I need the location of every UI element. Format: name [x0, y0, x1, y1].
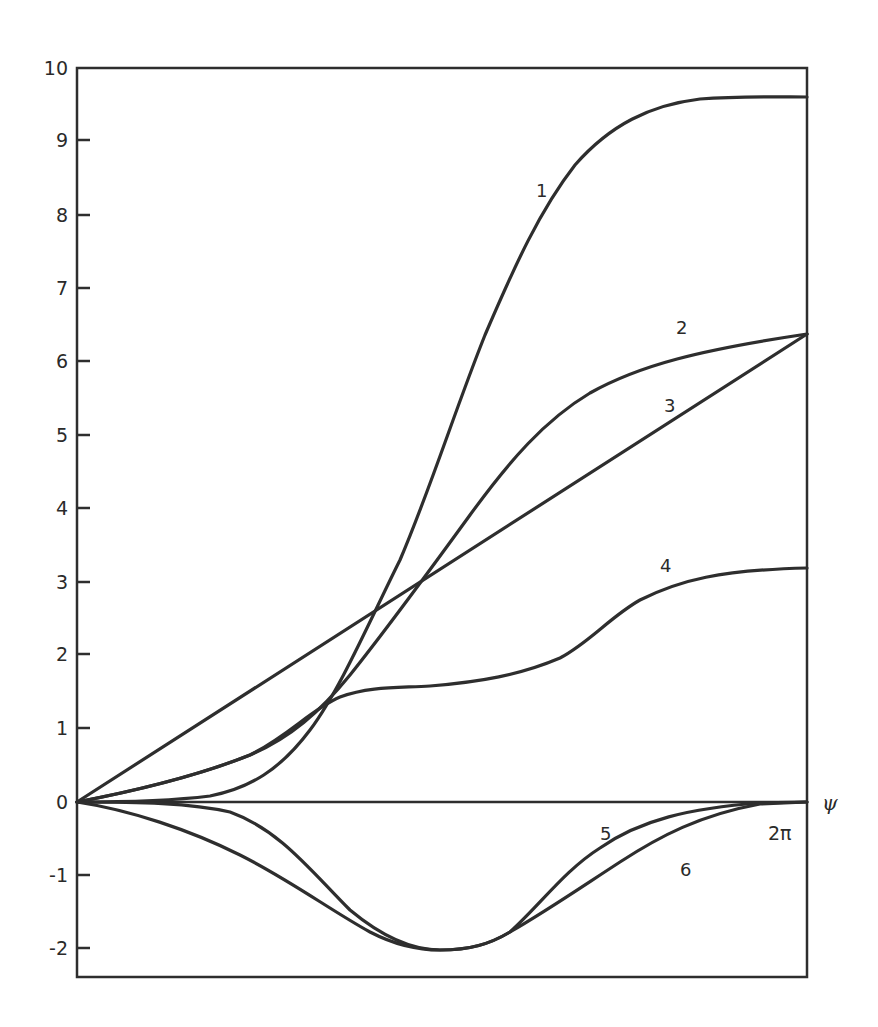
x-label-2pi: 2π [768, 822, 792, 844]
y-label-10: 10 [44, 57, 68, 79]
curve-label-4: 4 [660, 555, 671, 576]
curve-6 [77, 802, 807, 950]
y-label-minus-2: -2 [49, 937, 68, 959]
curve-label-3: 3 [664, 395, 675, 416]
curve-label-2: 2 [676, 317, 687, 338]
y-label-7: 7 [56, 277, 68, 299]
y-label-0: 0 [56, 791, 68, 813]
curve-5 [77, 802, 807, 950]
curve-3 [77, 334, 807, 802]
y-label-6: 6 [56, 350, 68, 372]
curve-labels: 1 2 3 4 5 6 [536, 180, 691, 880]
curve-label-1: 1 [536, 180, 547, 201]
plot-frame [77, 68, 807, 977]
curve-label-6: 6 [680, 859, 691, 880]
y-label-3: 3 [56, 571, 68, 593]
y-label-2: 2 [56, 643, 68, 665]
curve-1 [77, 97, 807, 802]
y-label-5: 5 [56, 424, 68, 446]
y-axis-ticks [77, 140, 90, 948]
y-label-4: 4 [56, 497, 68, 519]
x-axis-variable-psi: ψ [822, 791, 838, 815]
y-label-8: 8 [56, 204, 68, 226]
curve-4 [77, 568, 807, 802]
line-chart: 10 9 8 7 6 5 4 3 2 1 0 -1 -2 1 2 3 4 5 6… [0, 0, 878, 1027]
y-label-minus-1: -1 [49, 864, 68, 886]
y-axis-labels: 10 9 8 7 6 5 4 3 2 1 0 -1 -2 [44, 57, 68, 959]
y-label-1: 1 [56, 717, 68, 739]
curve-label-5: 5 [600, 823, 611, 844]
y-label-9: 9 [56, 129, 68, 151]
